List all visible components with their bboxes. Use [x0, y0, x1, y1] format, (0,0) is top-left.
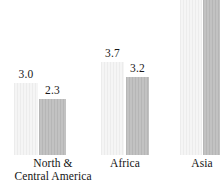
bar-fill — [39, 99, 66, 155]
plot-area: 3.02.33.73.2 — [0, 0, 220, 155]
value-label-north-central-america-dark: 2.3 — [45, 84, 60, 96]
bar-fill — [101, 62, 124, 155]
bar-north-central-america-light: 3.0 — [14, 83, 38, 155]
bar-fill — [126, 77, 149, 155]
bar-fill — [180, 0, 202, 155]
bar-africa-light: 3.7 — [101, 62, 124, 155]
bar-fill — [203, 0, 220, 155]
bar-fill — [14, 83, 38, 155]
category-label-north-central-america: North &Central America — [6, 157, 100, 183]
grouped-bar-chart: 3.02.33.73.2 North &Central AmericaAfric… — [0, 0, 220, 184]
value-label-africa-dark: 3.2 — [130, 62, 145, 74]
category-label-line1: North & — [33, 157, 72, 169]
category-label-africa: Africa — [90, 157, 160, 170]
category-label-asia: Asia — [170, 157, 220, 170]
category-label-line1: Africa — [110, 157, 140, 169]
bar-north-central-america-dark: 2.3 — [39, 99, 66, 155]
bar-asia-dark — [203, 0, 220, 155]
value-label-africa-light: 3.7 — [105, 47, 120, 59]
value-label-north-central-america-light: 3.0 — [19, 68, 34, 80]
bar-africa-dark: 3.2 — [126, 77, 149, 155]
bar-asia-light — [180, 0, 202, 155]
category-label-line2: Central America — [6, 170, 100, 183]
category-label-line1: Asia — [191, 157, 212, 169]
